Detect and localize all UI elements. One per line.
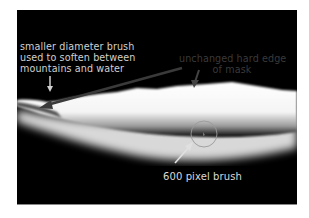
annotation-600-pixel-brush: 600 pixel brush [163,171,242,182]
mask-image-panel: smaller diameter brush used to soften be… [17,10,297,205]
annotation-hard-edge: unchanged hard edge of mask [179,53,285,75]
annotation-smaller-brush: smaller diameter brush used to soften be… [20,41,135,74]
mask-illustration [17,10,297,204]
small-brush-arrowhead [47,86,53,92]
